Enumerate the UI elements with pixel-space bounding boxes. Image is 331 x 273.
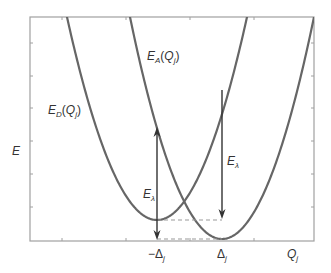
x-axis-label: Qj	[287, 248, 298, 263]
left-energy-arrow	[154, 127, 161, 240]
pos-delta-tick-label: Δj	[217, 248, 227, 263]
right-arrow-label: Eλ	[227, 155, 239, 170]
energy-diagram	[0, 0, 331, 273]
left-arrow-label: Eλ	[143, 188, 155, 203]
donor-curve-label: ED(Qj)	[48, 104, 81, 119]
y-ticks	[30, 43, 314, 207]
acceptor-curve-label: EA(Qj)	[147, 50, 179, 65]
y-axis-label: E	[12, 145, 20, 157]
neg-delta-tick-label: −Δj	[148, 248, 165, 263]
